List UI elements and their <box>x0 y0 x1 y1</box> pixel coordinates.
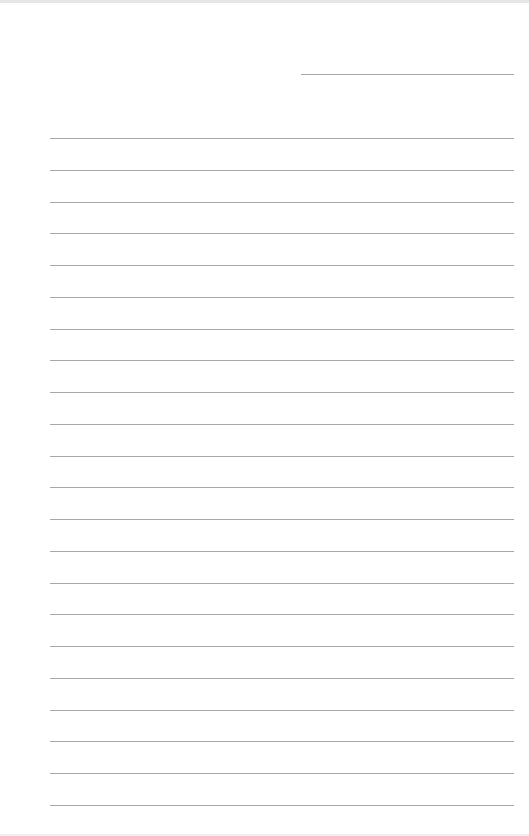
ruled-line <box>50 329 514 330</box>
ruled-line <box>50 202 514 203</box>
ruled-line <box>50 170 514 171</box>
ruled-line <box>50 360 514 361</box>
ruled-line <box>50 741 514 742</box>
ruled-line <box>50 710 514 711</box>
ruled-line <box>50 583 514 584</box>
name-date-line <box>301 74 514 75</box>
ruled-line <box>50 233 514 234</box>
ruled-line <box>50 392 514 393</box>
paper-top-edge <box>0 0 529 3</box>
ruled-line <box>50 773 514 774</box>
ruled-line <box>50 487 514 488</box>
ruled-line <box>50 424 514 425</box>
ruled-line <box>50 519 514 520</box>
ruled-line <box>50 138 514 139</box>
ruled-line <box>50 551 514 552</box>
ruled-line <box>50 678 514 679</box>
ruled-line <box>50 297 514 298</box>
ruled-line <box>50 805 514 806</box>
ruled-line <box>50 614 514 615</box>
ruled-line <box>50 456 514 457</box>
ruled-line <box>50 646 514 647</box>
ruled-line <box>50 265 514 266</box>
